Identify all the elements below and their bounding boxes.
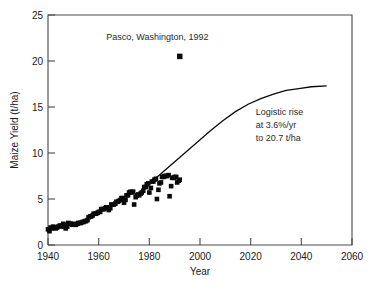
y-axis-ticks bbox=[48, 15, 55, 245]
x-tick-label-1980: 1980 bbox=[138, 251, 161, 262]
y-tick-label-15: 15 bbox=[32, 102, 44, 113]
y-axis-title: Maize Yield (t/ha) bbox=[9, 91, 20, 168]
x-tick-label-1960: 1960 bbox=[88, 251, 111, 262]
data-point bbox=[123, 198, 128, 203]
x-tick-label-2020: 2020 bbox=[240, 251, 263, 262]
maize-yield-chart: 0 5 10 15 20 25 1940 1960 1980 2000 2020… bbox=[0, 0, 373, 298]
data-point bbox=[156, 188, 161, 193]
plot-frame bbox=[48, 15, 352, 245]
y-tick-label-5: 5 bbox=[37, 194, 43, 205]
x-axis-tick-labels: 1940 1960 1980 2000 2020 2040 2060 bbox=[37, 251, 364, 262]
annotation-logistic-line-2: at 3.6%/yr bbox=[256, 120, 297, 130]
annotation-pasco-label: Pasco, Washington, 1992 bbox=[106, 32, 208, 42]
data-point bbox=[159, 180, 164, 185]
x-tick-label-2000: 2000 bbox=[189, 251, 212, 262]
annotation-logistic-line-3: to 20.7 t/ha bbox=[256, 133, 301, 143]
x-axis-ticks bbox=[48, 238, 352, 245]
data-point bbox=[155, 197, 160, 202]
scatter-points-layer bbox=[46, 173, 182, 234]
x-tick-label-2060: 2060 bbox=[341, 251, 364, 262]
data-point bbox=[177, 177, 182, 182]
y-tick-label-20: 20 bbox=[32, 56, 44, 67]
data-point bbox=[147, 190, 152, 195]
annotation-logistic-line-1: Logistic rise bbox=[256, 107, 304, 117]
x-tick-label-2040: 2040 bbox=[290, 251, 313, 262]
data-point bbox=[169, 184, 174, 189]
x-tick-label-1940: 1940 bbox=[37, 251, 60, 262]
data-point bbox=[149, 186, 154, 191]
pasco-point-layer bbox=[177, 54, 183, 60]
y-tick-label-10: 10 bbox=[32, 148, 44, 159]
y-tick-label-25: 25 bbox=[32, 10, 44, 21]
y-tick-label-0: 0 bbox=[37, 240, 43, 251]
figure-container: 0 5 10 15 20 25 1940 1960 1980 2000 2020… bbox=[0, 0, 373, 298]
pasco-data-point bbox=[177, 54, 183, 60]
data-point bbox=[132, 202, 137, 207]
y-axis-tick-labels: 0 5 10 15 20 25 bbox=[32, 10, 44, 251]
data-point bbox=[167, 194, 172, 199]
x-axis-title: Year bbox=[190, 266, 211, 277]
